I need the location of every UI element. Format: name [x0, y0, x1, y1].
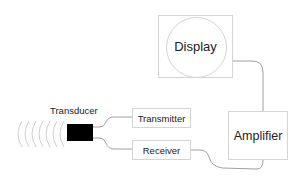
receiver-node: Receiver [132, 140, 191, 160]
transmitter-label: Transmitter [138, 113, 186, 124]
amplifier-node: Amplifier [228, 111, 288, 160]
wire-transducer-transmitter [93, 117, 132, 127]
diagram-canvas: Display Amplifier Transmitter Receiver T… [0, 0, 300, 177]
receiver-label: Receiver [143, 145, 181, 156]
transducer-node [67, 124, 93, 141]
sound-wave-icon [18, 121, 64, 147]
amplifier-label: Amplifier [234, 129, 283, 143]
wire-amplifier-display [233, 61, 263, 111]
display-label: Display [174, 39, 217, 54]
wire-transducer-receiver [93, 138, 132, 149]
display-node: Display [158, 15, 233, 78]
transmitter-node: Transmitter [132, 108, 191, 128]
transducer-label: Transducer [50, 105, 98, 116]
